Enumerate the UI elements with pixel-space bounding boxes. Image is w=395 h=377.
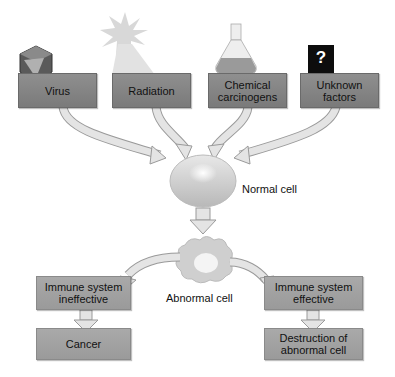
cause-box-virus: Virus: [18, 73, 97, 108]
cause-box-unknown-factors: Unknown factors: [300, 73, 379, 108]
abnormal-cell-label: Abnormal cell: [166, 292, 233, 304]
flask-icon: [216, 24, 257, 75]
arrow-layer: [0, 0, 395, 377]
cancer-causation-diagram: Virus Radiation Chemical carcinogens Unk…: [0, 0, 395, 377]
radiation-sun-icon: [100, 12, 155, 75]
outcome-label: Cancer: [66, 338, 101, 350]
down-arrow: [190, 208, 216, 234]
cause-box-chemical-carcinogens: Chemical carcinogens: [208, 73, 287, 108]
cause-label: Virus: [45, 85, 70, 97]
cause-box-radiation: Radiation: [112, 73, 191, 108]
abnormal-cell-icon: [176, 237, 232, 283]
cause-label: Chemical carcinogens: [216, 79, 280, 103]
cause-label: Radiation: [128, 85, 174, 97]
immune-ineffective-box: Immune system ineffective: [36, 276, 131, 310]
cancer-box: Cancer: [36, 328, 131, 360]
cause-label: Unknown factors: [313, 79, 367, 103]
destruction-box: Destruction of abnormal cell: [264, 328, 363, 360]
normal-cell-icon: [170, 155, 236, 207]
immune-effective-box: Immune system effective: [264, 276, 363, 310]
cause-arrows: [63, 107, 336, 155]
outcome-label: Destruction of abnormal cell: [274, 332, 354, 356]
normal-cell-label: Normal cell: [242, 183, 297, 195]
question-mark-icon: ?: [308, 45, 334, 73]
condition-label: Immune system effective: [270, 281, 358, 305]
condition-label: Immune system ineffective: [38, 281, 130, 305]
